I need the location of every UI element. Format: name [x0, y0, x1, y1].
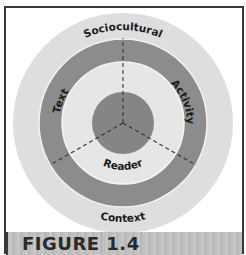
reading-model-diagram: Sociocultural Context Text Activity Read…	[0, 0, 246, 255]
figure-caption: FIGURE 1.4	[22, 233, 140, 255]
figure-caption-bar: FIGURE 1.4	[6, 232, 242, 255]
